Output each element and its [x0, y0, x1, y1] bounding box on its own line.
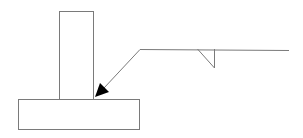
arrow-leader-line: [104, 50, 140, 89]
weld-symbol-diagram: [0, 0, 303, 138]
vertical-plate: [60, 12, 94, 100]
fillet-weld-symbol-icon: [198, 49, 215, 68]
base-plate: [19, 100, 140, 130]
